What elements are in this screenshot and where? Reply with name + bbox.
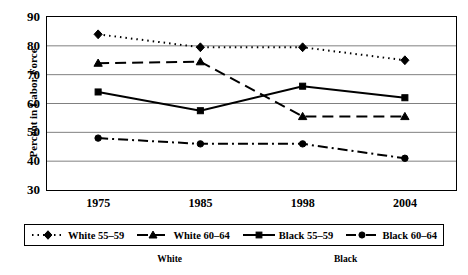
group-label: Black (301, 254, 391, 264)
data-point-marker (95, 135, 101, 141)
legend-item[interactable]: Black 55–59 (242, 228, 334, 242)
y-tick-label: 70 (10, 67, 40, 80)
data-point-marker (300, 83, 306, 89)
legend-marker-icon (136, 228, 170, 242)
y-tick-label: 60 (10, 96, 40, 109)
data-point-marker (196, 43, 204, 52)
y-tick-label: 30 (10, 183, 40, 196)
series-line (98, 62, 405, 117)
legend-marker-icon (31, 228, 65, 242)
data-point-marker (402, 155, 408, 161)
data-point-marker (197, 108, 203, 114)
data-point-marker (299, 43, 307, 52)
data-point-marker (196, 58, 204, 65)
data-point-marker (95, 89, 101, 95)
legend-label: Black 60–64 (382, 230, 437, 241)
legend-label: Black 55–59 (279, 230, 334, 241)
line-chart: Percent in Labor Force 30405060708090 19… (0, 0, 468, 275)
y-tick-label: 50 (10, 125, 40, 138)
data-point-marker (94, 30, 102, 39)
legend-item[interactable]: Black 60–64 (345, 228, 437, 242)
chart-legend: White 55–59White 60–64Black 55–59Black 6… (24, 224, 444, 246)
data-point-marker (197, 141, 203, 147)
x-tick-label: 1985 (165, 196, 235, 211)
x-tick-label: 2004 (370, 196, 440, 211)
legend-label: White 55–59 (68, 230, 124, 241)
data-point-marker (402, 95, 408, 101)
legend-marker-icon (345, 228, 379, 242)
group-label: White (125, 254, 215, 264)
legend-label: White 60–64 (173, 230, 229, 241)
plot-area (46, 16, 457, 191)
x-tick-label: 1998 (268, 196, 338, 211)
y-tick-label: 90 (10, 10, 40, 23)
data-point-marker (401, 112, 409, 119)
series-line (98, 138, 405, 158)
y-tick-label: 80 (10, 38, 40, 51)
plot-svg (47, 17, 456, 190)
y-tick-label: 40 (10, 154, 40, 167)
series-line (98, 34, 405, 60)
legend-item[interactable]: White 55–59 (31, 228, 124, 242)
legend-item[interactable]: White 60–64 (136, 228, 229, 242)
data-point-marker (401, 56, 409, 65)
x-tick-label: 1975 (63, 196, 133, 211)
legend-marker-icon (242, 228, 276, 242)
data-point-marker (299, 141, 305, 147)
